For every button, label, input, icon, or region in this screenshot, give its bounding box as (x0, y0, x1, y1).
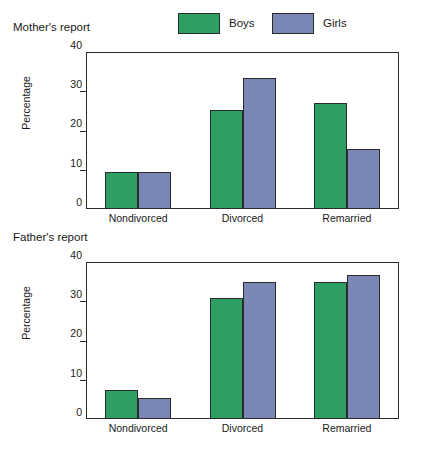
bar-boys-nondivorced (105, 172, 138, 209)
y-tick-label: 30 (70, 78, 82, 90)
bar-boys-remarried (314, 282, 347, 419)
x-tick-label: Divorced (222, 213, 263, 224)
y-axis-ticks-bottom: 010203040 (52, 255, 82, 412)
y-axis-label-bottom: Percentage (20, 268, 32, 358)
bar-girls-nondivorced (138, 398, 171, 419)
chart-panel-fathers-report: Percentage 010203040 NondivorcedDivorced… (0, 255, 427, 455)
bar-girls-nondivorced (138, 172, 171, 209)
bar-boys-divorced (210, 110, 243, 209)
x-tick-label: Remarried (322, 213, 371, 224)
y-tick-mark (80, 301, 86, 302)
bar-girls-divorced (243, 282, 276, 419)
y-axis-label-top: Percentage (20, 58, 32, 148)
legend-entry-boys: Boys (178, 13, 255, 34)
y-tick-mark (80, 170, 86, 171)
panel-title-mothers-report: Mother's report (13, 22, 90, 34)
y-tick-label: 10 (70, 157, 82, 169)
y-tick-label: 30 (70, 288, 82, 300)
legend-swatch-boys (178, 13, 220, 34)
bar-boys-nondivorced (105, 390, 138, 419)
x-tick-label: Nondivorced (109, 423, 168, 434)
y-tick-label: 0 (76, 196, 82, 208)
x-tick-label: Nondivorced (109, 213, 168, 224)
x-axis-labels-bottom: NondivorcedDivorcedRemarried (86, 423, 399, 439)
y-tick-mark (80, 380, 86, 381)
bar-boys-divorced (210, 298, 243, 419)
bars-layer-top (86, 52, 399, 209)
y-tick-label: 20 (70, 118, 82, 130)
y-tick-label: 10 (70, 367, 82, 379)
bar-girls-remarried (347, 275, 380, 419)
x-axis-labels-top: NondivorcedDivorcedRemarried (86, 213, 399, 229)
y-axis-ticks-top: 010203040 (52, 45, 82, 202)
y-tick-label: 0 (76, 406, 82, 418)
bar-girls-remarried (347, 149, 380, 209)
panel-title-fathers-report: Father's report (13, 232, 87, 244)
y-tick-label: 40 (70, 39, 82, 51)
y-tick-label: 20 (70, 328, 82, 340)
chart-legend: Boys Girls (178, 13, 378, 39)
bar-boys-remarried (314, 103, 347, 209)
legend-swatch-girls (272, 13, 314, 34)
legend-label-boys: Boys (229, 18, 255, 30)
y-tick-label: 40 (70, 249, 82, 261)
y-tick-mark (80, 341, 86, 342)
legend-entry-girls: Girls (272, 13, 347, 34)
chart-panel-mothers-report: Percentage 010203040 NondivorcedDivorced… (0, 45, 427, 225)
bar-girls-divorced (243, 78, 276, 209)
x-tick-label: Divorced (222, 423, 263, 434)
legend-label-girls: Girls (323, 18, 347, 30)
bars-layer-bottom (86, 262, 399, 419)
y-tick-mark (80, 91, 86, 92)
figure-root: Boys Girls Mother's report Father's repo… (0, 0, 427, 458)
y-tick-mark (80, 131, 86, 132)
x-tick-label: Remarried (322, 423, 371, 434)
